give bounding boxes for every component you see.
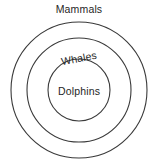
mammals-label: Mammals [0, 3, 158, 15]
dolphins-label: Dolphins [0, 85, 158, 97]
euler-diagram: Mammals Whales Dolphins [0, 0, 158, 168]
nested-circles-graphic [0, 0, 158, 168]
whales-label: Whales [0, 52, 158, 64]
